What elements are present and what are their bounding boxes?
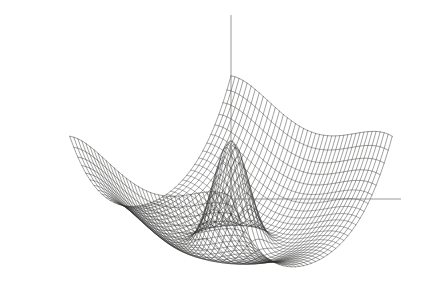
surface-plot-figure <box>0 0 423 286</box>
wireframe-surface-plot <box>0 0 423 286</box>
